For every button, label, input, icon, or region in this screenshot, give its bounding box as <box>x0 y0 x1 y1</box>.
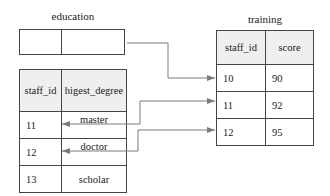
arrow-empty-to-10 <box>127 43 215 78</box>
arrow-11 <box>62 101 215 124</box>
connector-lines <box>0 0 330 196</box>
arrow-12 <box>62 130 215 151</box>
